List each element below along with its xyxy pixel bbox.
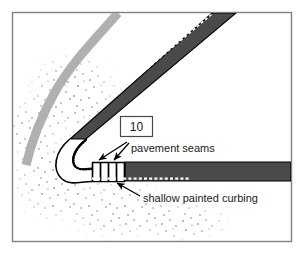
callout-box-label: 10 (130, 120, 144, 134)
intersection-diagram: 10 pavement seams shallow painted curbin… (0, 0, 305, 257)
label-pavement-seams: pavement seams (131, 142, 215, 154)
callout-box-10[interactable]: 10 (121, 117, 153, 137)
figure-root: 10 pavement seams shallow painted curbin… (0, 0, 305, 257)
label-shallow-painted-curbing: shallow painted curbing (143, 192, 258, 204)
